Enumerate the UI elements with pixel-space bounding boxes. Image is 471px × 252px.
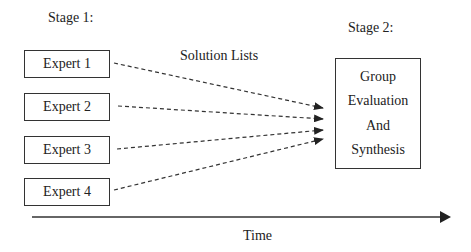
group-evaluation-box: Group Evaluation And Synthesis [335, 58, 421, 169]
stage1-label: Stage 1: [48, 10, 94, 26]
group-line-4: Synthesis [351, 143, 405, 157]
solution-lists-label: Solution Lists [180, 48, 258, 64]
expert-2-box: Expert 2 [24, 93, 110, 121]
expert-3-box: Expert 3 [24, 136, 110, 164]
time-label: Time [243, 228, 272, 244]
stage2-label: Stage 2: [348, 20, 394, 36]
time-axis [32, 211, 451, 223]
group-line-1: Group [360, 70, 396, 84]
group-line-2: Evaluation [348, 94, 409, 108]
group-line-3: And [366, 119, 390, 133]
arrow-expert1 [114, 63, 323, 108]
arrow-expert2 [118, 106, 323, 119]
expert-1-box: Expert 1 [24, 50, 110, 78]
expert-4-box: Expert 4 [24, 178, 110, 206]
